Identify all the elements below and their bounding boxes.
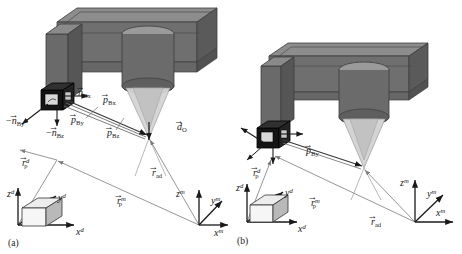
- p-by-vector: →pBy: [306, 146, 319, 157]
- panel-a-caption: (a): [8, 238, 19, 248]
- p-by-vector-arrow: [283, 140, 362, 169]
- r-p-m-arrow: [275, 156, 415, 222]
- p-bz-vector: →pBz: [107, 128, 119, 139]
- panel-a-graphic: [0, 0, 231, 254]
- spindle: [339, 62, 389, 125]
- axis-xm-label: xm: [436, 208, 445, 218]
- axis-zm-label: zm: [176, 189, 185, 199]
- axis-yd-label: yd: [285, 188, 293, 198]
- axis-zm-label: zm: [400, 178, 409, 188]
- figure-container: →nBx −→nBy −→nBz →pBx →pBy →pBz →dO →rad…: [0, 0, 462, 254]
- workpiece-cube-d: [22, 198, 62, 226]
- d-o-vector: →dO: [177, 122, 187, 133]
- axis-yd-label: yd: [58, 193, 66, 203]
- n-by-vector: −→nBy: [6, 116, 24, 127]
- p-bx-vector: →pBx: [103, 95, 116, 106]
- n-bz-vector: −→nBz: [46, 128, 64, 139]
- panel-b-caption: (b): [237, 236, 248, 246]
- axis-xm-label: xm: [214, 228, 223, 238]
- figure-panel-a: →nBx −→nBy −→nBz →pBx →pBy →pBz →dO →rad…: [0, 0, 231, 254]
- r-ad-arrow: [150, 140, 199, 225]
- p-by-vector: →pBy: [71, 115, 84, 126]
- axis-ym-label: ym: [211, 196, 220, 206]
- r-p-d-vector: →rdp: [253, 168, 259, 179]
- axis-xd-label: xd: [76, 227, 84, 237]
- light-cone: [343, 119, 385, 200]
- n-bx-vector: →nBx: [78, 88, 91, 99]
- axis-zd-label: zd: [236, 183, 243, 193]
- r-ad-vector: →rad: [371, 217, 381, 228]
- spindle: [122, 26, 174, 94]
- axis-xd-label: xd: [298, 224, 306, 234]
- r-p-m-vector: →rmp: [117, 196, 122, 207]
- r-ad-vector: →rad: [152, 168, 162, 179]
- m-frame-axes: [415, 180, 453, 222]
- axis-ym-label: ym: [427, 189, 436, 199]
- panel-b-graphic: [231, 0, 462, 254]
- r-p-d-vector: →rdp: [22, 158, 28, 169]
- r-p-m-vector: →rmp: [311, 198, 316, 209]
- figure-panel-b: →pBy →rdp →rmp →rad zd yd xd zm ym xm (b…: [231, 0, 462, 254]
- axis-zd-label: zd: [7, 189, 14, 199]
